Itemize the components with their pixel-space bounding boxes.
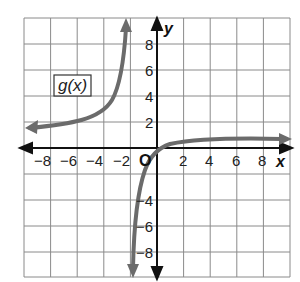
- svg-text:8: 8: [145, 36, 153, 53]
- svg-text:−4: −4: [136, 192, 153, 209]
- axes: [20, 18, 292, 279]
- svg-text:6: 6: [232, 152, 240, 169]
- svg-text:−4: −4: [86, 152, 103, 169]
- svg-text:6: 6: [145, 62, 153, 79]
- svg-text:4: 4: [145, 88, 153, 105]
- svg-text:−6: −6: [60, 152, 77, 169]
- svg-text:−8: −8: [34, 152, 51, 169]
- graph: −8 −6 −4 −2 2 4 6 8 8 6 4 2 −4 −6 −8 O x…: [0, 0, 300, 282]
- origin-label: O: [139, 152, 151, 169]
- y-axis-label: y: [163, 20, 174, 37]
- svg-text:2: 2: [179, 152, 187, 169]
- x-axis-label: x: [275, 153, 286, 170]
- svg-text:8: 8: [258, 152, 266, 169]
- svg-text:−2: −2: [113, 152, 130, 169]
- svg-text:−8: −8: [136, 244, 153, 261]
- svg-text:4: 4: [205, 152, 213, 169]
- function-label: g(x): [58, 76, 87, 95]
- svg-text:2: 2: [145, 114, 153, 131]
- svg-text:−6: −6: [136, 218, 153, 235]
- function-label-box: g(x): [54, 75, 91, 96]
